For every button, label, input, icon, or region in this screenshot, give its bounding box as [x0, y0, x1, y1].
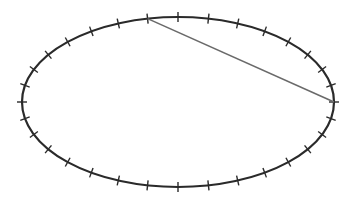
tick-mark: [208, 180, 209, 190]
tick-marks: [17, 12, 339, 192]
tick-mark: [208, 14, 209, 24]
ellipse-diagram: [0, 0, 346, 202]
tick-mark: [147, 180, 148, 190]
chord-line: [148, 19, 334, 102]
